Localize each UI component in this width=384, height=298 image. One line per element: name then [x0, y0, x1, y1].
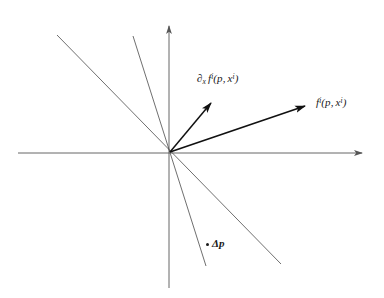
derivative-close-paren: ) — [235, 72, 239, 84]
delta-p-label: Δp — [212, 237, 225, 249]
delta-p-point-marker — [206, 243, 209, 246]
diagram-canvas — [0, 0, 384, 298]
vector-diagram-figure: ∂xfi(p,xi) fi(p,xi) Δp — [0, 0, 384, 298]
function-vector-label: fi(p,xi) — [316, 96, 347, 108]
function-comma: , — [331, 96, 334, 108]
derivative-comma: , — [223, 72, 226, 84]
delta-p-variable: p — [219, 237, 225, 249]
thin-line-steep — [133, 36, 206, 266]
vectors-group — [170, 103, 305, 152]
function-vector-arrow — [170, 106, 305, 152]
derivative-vector-label: ∂xfi(p,xi) — [197, 72, 239, 86]
delta-symbol: Δ — [212, 237, 219, 249]
axes-group — [18, 26, 362, 288]
function-close-paren: ) — [343, 96, 347, 108]
derivative-subscript: x — [203, 77, 206, 86]
